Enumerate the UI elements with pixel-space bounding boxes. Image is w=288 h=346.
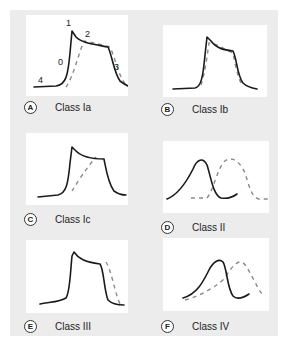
figure-panel: 4 0 1 2 3 A Class Ia B Class Ib [10,10,278,336]
class-label: Class Ia [55,102,91,113]
letter-badge: E [24,320,37,333]
phase-1-label: 1 [66,18,71,28]
panel-a-label: A Class Ia [24,101,91,114]
action-potential-iv [163,238,269,311]
class-label: Class Ic [55,214,91,225]
panel-e-label: E Class III [24,320,91,333]
letter-badge: D [161,221,174,234]
panel-e-plot [26,240,128,313]
action-potential-iii [26,240,128,313]
panel-d-plot [163,141,269,213]
phase-4-label: 4 [38,75,43,85]
panel-d-label: D Class II [161,221,225,234]
panel-b-label: B Class Ib [161,103,228,116]
class-label: Class IV [192,321,229,332]
phase-0-label: 0 [58,57,63,67]
letter-badge: B [161,103,174,116]
panel-b-plot [163,25,267,97]
phase-2-label: 2 [85,29,90,39]
panel-f-label: F Class IV [161,320,229,333]
letter-badge: A [24,101,37,114]
class-label: Class Ib [192,104,228,115]
phase-3-label: 3 [114,62,119,72]
class-label: Class III [55,321,91,332]
letter-badge: C [24,213,37,226]
action-potential-ii [163,141,269,213]
panel-f-plot [163,238,269,311]
letter-badge: F [161,320,174,333]
panel-c-label: C Class Ic [24,213,91,226]
action-potential-ic [26,133,128,205]
panel-c-plot [26,133,128,205]
action-potential-ib [163,25,267,97]
class-label: Class II [192,222,225,233]
panel-a-plot: 4 0 1 2 3 [26,15,128,96]
action-potential-ia: 4 0 1 2 3 [26,15,128,96]
